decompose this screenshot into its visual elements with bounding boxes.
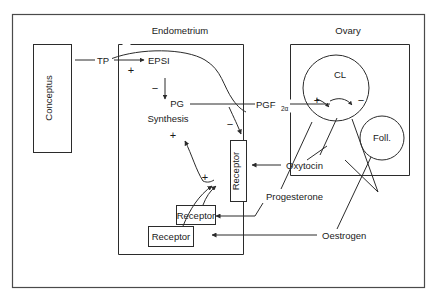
receptor-vertical-label: Receptor <box>230 152 241 191</box>
tp-label: TP <box>97 55 109 66</box>
pg-synthesis-label: Synthesis <box>147 113 188 124</box>
conceptus-label: Conceptus <box>43 75 54 121</box>
outer-frame <box>13 15 425 288</box>
cl-circle <box>303 55 369 121</box>
pgf2a-label: PGF <box>256 99 276 110</box>
tp-to-epsi-plus-sign: + <box>128 64 134 76</box>
pg-to-receptor-minus-sign: − <box>227 118 233 130</box>
endometrium-ovary-signalling-diagram: Endometrium Conceptus TP + EPSI − PG Syn… <box>0 0 438 306</box>
pg-synthesis-plus-sign: + <box>170 129 176 141</box>
receptor-mid-label: Receptor <box>177 210 216 221</box>
receptor-to-pg-curve <box>185 141 203 181</box>
receptor-lower-label: Receptor <box>152 231 191 242</box>
receptor-mid-to-vertical-arrow <box>203 186 216 205</box>
oestrogen-label: Oestrogen <box>322 230 366 241</box>
foll-label: Foll. <box>373 132 391 143</box>
epsi-label: EPSI <box>148 55 170 66</box>
cl-minus-arrow <box>330 99 352 105</box>
oxytocin-label: Oxytocin <box>286 160 323 171</box>
diagram-canvas: Endometrium Conceptus TP + EPSI − PG Syn… <box>0 0 438 306</box>
epsi-to-pg-minus-sign: − <box>152 82 158 94</box>
foll-to-oestrogen-line <box>337 157 371 229</box>
endometrium-label: Endometrium <box>152 25 209 36</box>
ovary-label: Ovary <box>335 25 361 36</box>
progesterone-to-receptor-leader <box>247 203 263 216</box>
ovary-link-a <box>307 146 327 160</box>
ovary-link-c <box>352 119 378 192</box>
receptor-plus-sign: + <box>202 171 208 183</box>
cl-plus-sign: + <box>314 94 320 106</box>
pgf2a-subscript-label: 2α <box>281 105 289 112</box>
progesterone-label: Progesterone <box>266 191 323 202</box>
cl-label: CL <box>334 69 346 80</box>
ovary-box <box>291 45 410 176</box>
pg-label: PG <box>170 98 184 109</box>
progesterone-to-cl-line <box>281 122 312 189</box>
cl-minus-sign: − <box>358 94 364 106</box>
